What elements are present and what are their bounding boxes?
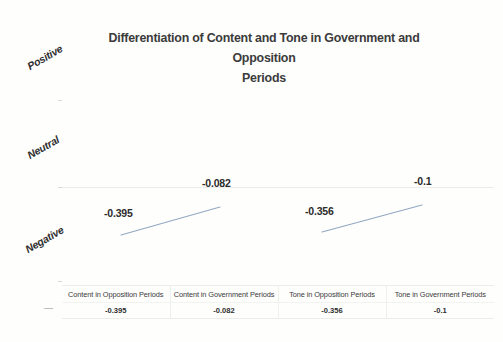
table-value-tone-opposition: -0.356 — [278, 303, 386, 319]
line-segment-content — [121, 207, 220, 235]
chart-title: Differentiation of Content and Tone in G… — [80, 28, 448, 88]
chart-page: Differentiation of Content and Tone in G… — [0, 0, 503, 342]
table-value-content-government: -0.082 — [170, 303, 278, 319]
plot-area: Positive Neutral Negative -0.395 -0.082 … — [62, 88, 494, 283]
data-label-content-government: -0.082 — [202, 177, 231, 189]
table-value-content-opposition: -0.395 — [62, 303, 170, 319]
data-label-content-opposition: -0.395 — [104, 207, 133, 219]
table-header-row: Content in Opposition Periods Content in… — [62, 286, 494, 303]
data-label-tone-government: -0.1 — [414, 175, 431, 187]
table-header-content-government: Content in Government Periods — [170, 286, 278, 303]
line-segment-tone — [322, 205, 422, 232]
table-value-row: -0.395 -0.082 -0.356 -0.1 — [62, 303, 494, 319]
chart-title-line-1: Differentiation of Content and Tone in G… — [109, 30, 420, 65]
data-table: Content in Opposition Periods Content in… — [62, 285, 494, 319]
table-header-tone-government: Tone in Government Periods — [386, 286, 494, 303]
table-header-tone-opposition: Tone in Opposition Periods — [278, 286, 386, 303]
table-row-stub: — — [44, 303, 53, 313]
y-axis-label-positive: Positive — [25, 42, 64, 72]
y-axis-label-neutral: Neutral — [25, 133, 61, 161]
table-value-tone-government: -0.1 — [386, 303, 494, 319]
data-label-tone-opposition: -0.356 — [305, 205, 334, 217]
y-axis-label-negative: Negative — [23, 224, 66, 255]
chart-title-line-2: Periods — [242, 70, 286, 85]
table-header-content-opposition: Content in Opposition Periods — [62, 286, 170, 303]
